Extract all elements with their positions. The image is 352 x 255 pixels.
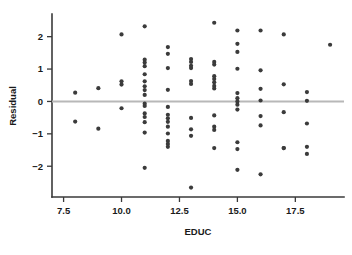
x-tick-label: 17.5: [286, 205, 305, 216]
data-point: [166, 105, 170, 109]
chart-canvas: 7.510.012.515.017.5 210−1−2 EDUC Residua…: [0, 0, 352, 255]
data-point: [212, 62, 216, 66]
data-point: [212, 146, 216, 150]
data-point: [212, 128, 216, 132]
data-point: [235, 42, 239, 46]
data-point: [282, 146, 286, 150]
data-point: [258, 87, 262, 91]
data-point: [305, 90, 309, 94]
data-point: [305, 145, 309, 149]
scatter-plot-figure: 7.510.012.515.017.5 210−1−2 EDUC Residua…: [0, 0, 352, 255]
data-point: [166, 125, 170, 129]
data-point: [143, 166, 147, 170]
data-point: [189, 116, 193, 120]
data-point: [235, 91, 239, 95]
data-point: [235, 67, 239, 71]
data-point: [166, 45, 170, 49]
data-point: [305, 121, 309, 125]
plot-axes: [52, 14, 344, 197]
data-point: [189, 127, 193, 131]
x-tick-label: 15.0: [228, 205, 247, 216]
data-point: [119, 106, 123, 110]
data-point: [235, 107, 239, 111]
data-point: [189, 134, 193, 138]
data-point: [143, 64, 147, 68]
data-point: [235, 168, 239, 172]
data-point: [212, 113, 216, 117]
data-point: [166, 131, 170, 135]
data-point: [73, 91, 77, 95]
y-tick-label: 1: [38, 63, 44, 74]
x-axis-tick-labels: 7.510.012.515.017.5: [57, 205, 305, 216]
data-point: [235, 28, 239, 32]
data-point: [258, 123, 262, 127]
data-point: [282, 110, 286, 114]
data-point: [166, 66, 170, 70]
data-point: [189, 82, 193, 86]
y-tick-label: −1: [32, 128, 44, 139]
data-point: [166, 52, 170, 56]
data-point: [235, 50, 239, 54]
data-point: [166, 88, 170, 92]
data-point: [258, 98, 262, 102]
data-point: [166, 120, 170, 124]
data-point: [235, 103, 239, 107]
data-point: [235, 140, 239, 144]
data-point: [143, 88, 147, 92]
data-point: [143, 72, 147, 76]
data-point: [258, 172, 262, 176]
data-point: [282, 82, 286, 86]
x-axis-label: EDUC: [185, 226, 212, 237]
x-tick-label: 7.5: [57, 205, 71, 216]
y-tick-label: −2: [32, 161, 43, 172]
data-point: [258, 114, 262, 118]
data-point: [305, 99, 309, 103]
x-tick-label: 10.0: [112, 205, 131, 216]
y-tick-label: 0: [38, 96, 43, 107]
data-point: [143, 104, 147, 108]
data-point: [189, 186, 193, 190]
data-point: [212, 86, 216, 90]
data-point: [143, 24, 147, 28]
y-axis-tick-labels: 210−1−2: [32, 31, 44, 172]
data-point: [189, 66, 193, 70]
data-point: [119, 83, 123, 87]
data-point: [73, 119, 77, 123]
data-point: [143, 130, 147, 134]
data-point: [258, 68, 262, 72]
x-tick-label: 12.5: [170, 205, 189, 216]
data-point: [235, 147, 239, 151]
data-point: [143, 93, 147, 97]
data-point: [143, 115, 147, 119]
data-point: [96, 86, 100, 90]
data-point: [119, 32, 123, 36]
data-point: [166, 145, 170, 149]
data-points-layer: [73, 21, 332, 190]
data-point: [305, 152, 309, 156]
data-point: [143, 84, 147, 88]
y-axis-label: Residual: [7, 86, 18, 126]
data-point: [189, 60, 193, 64]
y-tick-label: 2: [38, 31, 43, 42]
data-point: [212, 21, 216, 25]
data-point: [96, 127, 100, 131]
data-point: [258, 28, 262, 32]
data-point: [328, 43, 332, 47]
data-point: [282, 32, 286, 36]
data-point: [143, 79, 147, 83]
data-point: [143, 120, 147, 124]
